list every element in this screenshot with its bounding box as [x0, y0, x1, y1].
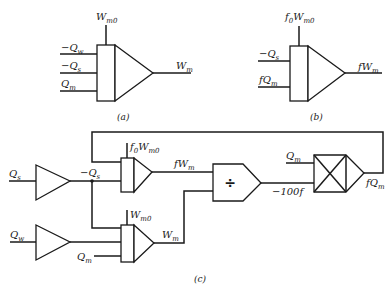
- label-fwm: fWm: [173, 158, 195, 172]
- label-qm: Qm: [61, 78, 76, 92]
- label-qm-lower: Qm: [77, 251, 92, 265]
- panel-a: Wm0 −Qw −Qs Qm Wm (a): [60, 11, 193, 122]
- label-fqm: fQm: [365, 177, 385, 191]
- integrator-fwm-triangle: [134, 158, 152, 192]
- panel-b: f0Wm0 −Qs fQm fWm (b): [258, 11, 382, 122]
- neg-qs-branch: [92, 181, 121, 228]
- label-qs: Qs: [9, 168, 21, 182]
- integrator-wm-triangle: [134, 225, 154, 262]
- caption-c: (c): [194, 274, 207, 284]
- label-f0wm0: f0Wm0: [129, 141, 160, 155]
- caption-a: (a): [117, 112, 130, 122]
- label-qm-mult: Qm: [286, 150, 301, 164]
- inverter-qs: [36, 165, 70, 200]
- label-neg-qs: −Qs: [80, 167, 101, 181]
- divider-block: [213, 164, 261, 201]
- label-neg-qs: −Qs: [259, 48, 280, 62]
- panel-c: ÷ Qs Qw −Qs f0Wm0 Wm0 Qm fWm Wm −100f Qm…: [9, 132, 385, 284]
- label-qw: Qw: [10, 229, 24, 243]
- label-neg100f: −100f: [272, 186, 305, 197]
- integrator-input-box: [97, 45, 115, 101]
- label-neg-qs: −Qs: [61, 60, 82, 74]
- analog-computer-diagram: Wm0 −Qw −Qs Qm Wm (a) f0Wm0 −Qs fQm fWm …: [0, 0, 392, 290]
- integrator-input-box: [290, 46, 308, 101]
- label-f0wm0: f0Wm0: [284, 11, 315, 25]
- divide-icon: ÷: [224, 175, 236, 191]
- multiplier-block: [314, 155, 364, 192]
- label-wm: Wm: [162, 229, 179, 243]
- label-wm0: Wm0: [96, 11, 118, 25]
- integrator-triangle: [308, 46, 345, 101]
- inverter-qw: [36, 225, 70, 260]
- label-fqm: fQm: [258, 74, 278, 88]
- caption-b: (b): [310, 112, 323, 122]
- label-wm0: Wm0: [130, 209, 152, 223]
- integrator-fwm-box: [121, 158, 134, 192]
- integrator-wm-box: [121, 225, 134, 262]
- label-wm-out: Wm: [176, 60, 193, 74]
- integrator-triangle: [115, 45, 153, 101]
